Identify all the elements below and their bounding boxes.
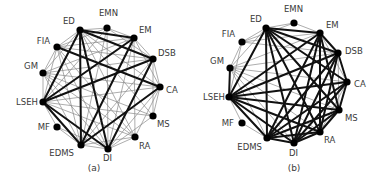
node-ed	[262, 24, 269, 31]
node-ra	[316, 128, 323, 135]
node-label-ed: ED	[250, 14, 262, 24]
node-emn	[290, 19, 297, 26]
edge-dsb-ms	[338, 53, 339, 110]
edge-gm-fia	[43, 47, 57, 73]
node-label-emn: EMN	[284, 4, 303, 14]
node-dsb	[334, 49, 341, 56]
node-em	[130, 34, 137, 41]
node-ra	[131, 133, 138, 140]
node-label-em: EM	[326, 20, 339, 30]
node-label-ca: CA	[354, 79, 366, 89]
caption-a: (a)	[88, 163, 101, 173]
thin-edges-b	[229, 23, 347, 143]
node-label-lseh: LSEH	[16, 97, 38, 107]
node-label-edms: EDMS	[237, 142, 262, 152]
node-edms	[77, 141, 84, 148]
node-ms	[335, 106, 342, 113]
caption-b: (b)	[288, 163, 301, 173]
node-label-gm: GM	[24, 61, 38, 71]
node-label-di: DI	[103, 153, 112, 163]
node-edms	[263, 134, 270, 141]
node-label-emn: EMN	[99, 8, 118, 18]
node-ms	[149, 112, 156, 119]
edge-emn-di	[107, 28, 108, 149]
node-lseh	[39, 98, 46, 105]
node-label-gm: GM	[210, 56, 224, 66]
node-ca	[343, 78, 350, 85]
node-label-fia: FIA	[222, 29, 235, 39]
network-graph-a: EDEMNEMDSBCAMSRADIEDMSMFLSEHGMFIA (a)	[16, 8, 178, 173]
edge-ra-lseh	[43, 102, 135, 137]
node-fia	[53, 43, 60, 50]
node-mf	[53, 123, 60, 130]
node-label-dsb: DSB	[345, 46, 363, 56]
node-label-ca: CA	[166, 85, 178, 95]
node-di	[290, 139, 297, 146]
node-ed	[76, 26, 83, 33]
node-emn	[103, 24, 110, 31]
node-mf	[238, 119, 245, 126]
node-label-ed: ED	[63, 16, 75, 26]
edge-em-ca	[134, 38, 160, 87]
node-gm	[226, 64, 233, 71]
node-label-ra: RA	[139, 141, 151, 151]
nodes-a	[39, 24, 163, 152]
node-label-dsb: DSB	[158, 48, 176, 58]
node-gm	[39, 69, 46, 76]
node-ca	[156, 83, 163, 90]
node-label-di: DI	[289, 148, 298, 158]
node-label-ms: MS	[157, 119, 170, 129]
network-figure: EDEMNEMDSBCAMSRADIEDMSMFLSEHGMFIA (a) ED…	[0, 0, 379, 188]
node-label-mf: MF	[38, 122, 50, 132]
strong-edge-edms-lseh	[229, 97, 267, 138]
node-label-mf: MF	[222, 118, 234, 128]
node-label-lseh: LSEH	[203, 92, 225, 102]
network-graph-b: EDEMNEMDSBCAMSRADIEDMSMFLSEHGMFIA (b)	[203, 4, 366, 173]
node-label-ms: MS	[345, 113, 358, 123]
edge-ed-emn	[266, 23, 294, 28]
node-lseh	[225, 93, 232, 100]
node-label-edms: EDMS	[49, 148, 74, 158]
node-dsb	[149, 55, 156, 62]
strong-edge-lseh-gm	[229, 68, 230, 97]
node-label-fia: FIA	[37, 36, 50, 46]
node-em	[316, 29, 323, 36]
node-di	[104, 145, 111, 152]
node-label-em: EM	[139, 25, 152, 35]
node-label-ra: RA	[324, 135, 336, 145]
node-fia	[238, 38, 245, 45]
